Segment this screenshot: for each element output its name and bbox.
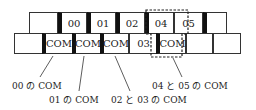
arrow-0405 [173,58,182,77]
arrow-00 [40,56,53,77]
annotation-00-com: 00 の COM [12,79,62,92]
dashed-group-outline [146,10,188,57]
annotation-01-com: 01 の COM [49,93,99,106]
arrow-0203 [115,56,130,91]
annotation-02-03-com: 02 と 03 の COM [111,93,187,106]
annotation-04-05-com: 04 と 05 の COM [152,79,228,92]
arrow-01 [79,56,84,91]
